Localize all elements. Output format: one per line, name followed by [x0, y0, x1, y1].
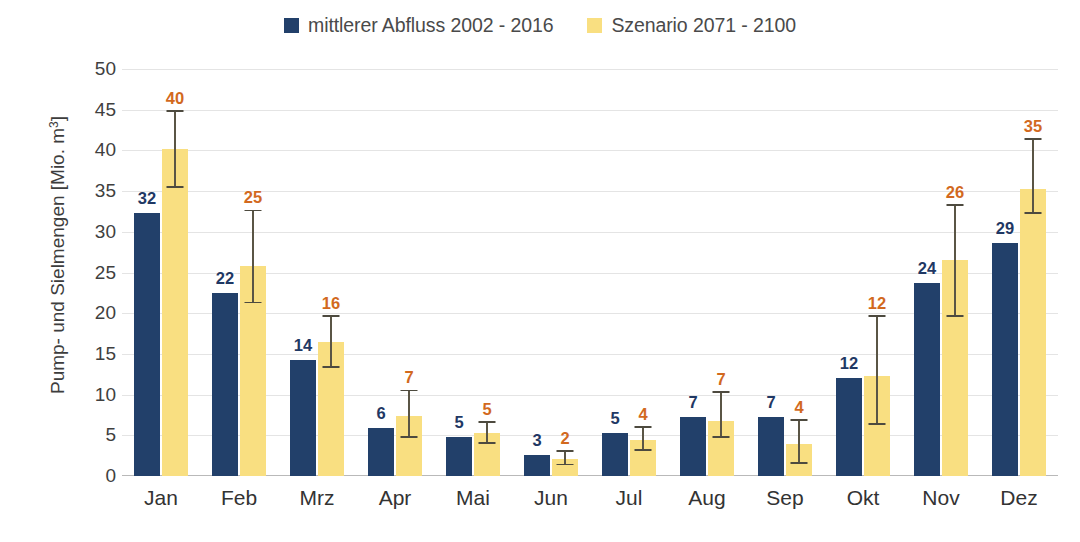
bar-group: 32 — [512, 69, 590, 476]
bar-value-label: 14 — [294, 336, 312, 355]
y-tick-label: 10 — [82, 384, 116, 406]
bar-value-label: 26 — [946, 183, 964, 202]
bar-measured[interactable] — [758, 417, 784, 476]
error-bar-cap-lower — [635, 449, 652, 451]
bar-measured[interactable] — [368, 428, 394, 476]
bar-scenario[interactable] — [162, 149, 188, 476]
x-tick-label: Jun — [534, 486, 568, 510]
y-axis-title: Pump- und Sielmengen [Mio. m3] — [36, 40, 72, 470]
x-tick-label: Okt — [847, 486, 880, 510]
bar-measured[interactable] — [446, 437, 472, 476]
bar-value-label: 2 — [560, 429, 569, 448]
bar-measured[interactable] — [680, 417, 706, 476]
error-bar-cap-lower — [245, 302, 262, 304]
bar-group: 67 — [356, 69, 434, 476]
error-bar-cap-upper — [869, 315, 886, 317]
bar-value-label: 7 — [404, 368, 413, 387]
bar-measured[interactable] — [836, 378, 862, 476]
y-tick-label: 0 — [82, 465, 116, 487]
bar-value-label: 25 — [244, 188, 262, 207]
square-swatch — [587, 18, 602, 33]
bar-value-label: 40 — [166, 89, 184, 108]
x-tick-label: Sep — [766, 486, 803, 510]
bar-group: 55 — [434, 69, 512, 476]
error-bar-cap-lower — [167, 186, 184, 188]
bar-measured[interactable] — [992, 243, 1018, 476]
bar-measured[interactable] — [290, 360, 316, 476]
error-bar-cap-lower — [947, 315, 964, 317]
error-bar-cap-upper — [167, 110, 184, 112]
y-tick-label: 30 — [82, 221, 116, 243]
bar-group: 2426 — [902, 69, 980, 476]
error-bar-line — [876, 317, 878, 424]
x-tick-label: Aug — [688, 486, 725, 510]
error-bar-cap-lower — [323, 366, 340, 368]
error-bar-line — [486, 423, 488, 444]
bar-group: 2225 — [200, 69, 278, 476]
y-axis-tick-labels: 50454035302520151050 — [76, 69, 116, 476]
legend-entry[interactable]: mittlerer Abfluss 2002 - 2016 — [284, 14, 553, 37]
bar-value-label: 12 — [840, 354, 858, 373]
error-bar-cap-lower — [869, 423, 886, 425]
bar-value-label: 5 — [482, 400, 491, 419]
x-tick-label: Apr — [379, 486, 412, 510]
y-tick-label: 20 — [82, 302, 116, 324]
error-bar-cap-lower — [713, 436, 730, 438]
x-axis-tick-labels: JanFebMrzAprMaiJunJulAugSepOktNovDez — [122, 486, 1058, 526]
error-bar-cap-upper — [557, 450, 574, 452]
bar-measured[interactable] — [914, 283, 940, 476]
bar-group: 2935 — [980, 69, 1058, 476]
bar-measured[interactable] — [134, 213, 160, 476]
y-tick-label: 45 — [82, 99, 116, 121]
error-bar-cap-upper — [245, 210, 262, 212]
error-bar-cap-upper — [401, 390, 418, 392]
error-bar-line — [330, 317, 332, 367]
y-tick-label: 25 — [82, 262, 116, 284]
bar-value-label: 6 — [376, 404, 385, 423]
bar-group: 1416 — [278, 69, 356, 476]
error-bar-line — [798, 421, 800, 464]
error-bar-line — [408, 391, 410, 437]
error-bar-cap-upper — [791, 419, 808, 421]
bar-group: 77 — [668, 69, 746, 476]
bar-value-label: 5 — [454, 413, 463, 432]
y-axis-title-bracket: ] — [47, 116, 68, 121]
error-bar-cap-lower — [791, 462, 808, 464]
bar-scenario[interactable] — [1020, 189, 1046, 476]
square-swatch — [284, 18, 299, 33]
bar-measured[interactable] — [212, 293, 238, 476]
error-bar-cap-upper — [713, 391, 730, 393]
bar-group: 54 — [590, 69, 668, 476]
error-bar-line — [720, 393, 722, 438]
y-tick-label: 40 — [82, 139, 116, 161]
error-bar-line — [642, 428, 644, 451]
error-bar-cap-lower — [1025, 212, 1042, 214]
error-bar-line — [252, 211, 254, 303]
bar-value-label: 3 — [532, 431, 541, 450]
bar-value-label: 29 — [996, 219, 1014, 238]
error-bar-cap-lower — [479, 442, 496, 444]
bar-value-label: 7 — [766, 393, 775, 412]
y-tick-label: 15 — [82, 343, 116, 365]
error-bar-line — [174, 112, 176, 188]
error-bar-cap-upper — [479, 421, 496, 423]
bar-measured[interactable] — [602, 433, 628, 476]
bar-value-label: 4 — [794, 398, 803, 417]
legend-entry[interactable]: Szenario 2071 - 2100 — [587, 14, 795, 37]
bar-value-label: 4 — [638, 405, 647, 424]
legend-label: mittlerer Abfluss 2002 - 2016 — [308, 14, 553, 37]
bar-value-label: 7 — [688, 393, 697, 412]
chart-legend: mittlerer Abfluss 2002 - 2016Szenario 20… — [0, 14, 1080, 37]
bar-value-label: 16 — [322, 294, 340, 313]
bar-measured[interactable] — [524, 455, 550, 476]
x-tick-label: Feb — [221, 486, 257, 510]
error-bar-line — [1032, 140, 1034, 214]
y-tick-label: 5 — [82, 424, 116, 446]
error-bar-cap-upper — [1025, 138, 1042, 140]
y-axis-title-exponent: 3 — [47, 121, 61, 128]
x-tick-label: Dez — [1000, 486, 1037, 510]
error-bar-line — [954, 206, 956, 318]
bar-group: 3240 — [122, 69, 200, 476]
bar-group: 74 — [746, 69, 824, 476]
bar-value-label: 7 — [716, 370, 725, 389]
